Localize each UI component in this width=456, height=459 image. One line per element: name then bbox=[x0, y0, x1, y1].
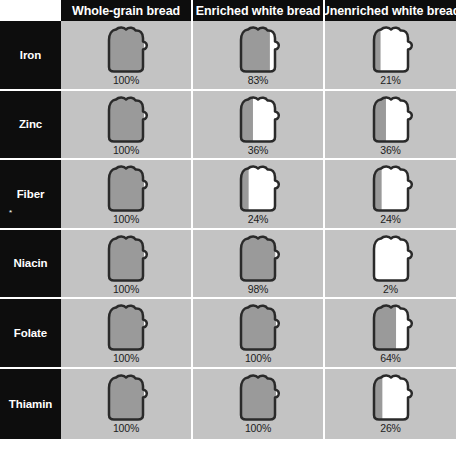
bread-slice-icon bbox=[364, 373, 418, 423]
column-header-row: Whole-grain bread Enriched white bread U… bbox=[0, 0, 456, 21]
cell-fiber-enriched-white: 24% bbox=[193, 160, 325, 230]
percent-label: 26% bbox=[380, 423, 400, 434]
cell-zinc-unenriched-white: 36% bbox=[325, 91, 456, 161]
cell-folate-unenriched-white: 64% bbox=[325, 299, 456, 369]
row-label-folate: Folate bbox=[0, 299, 61, 369]
table-row: Iron100%83%21% bbox=[0, 21, 456, 91]
footnote-marker-icon: * bbox=[9, 209, 12, 217]
cell-thiamin-unenriched-white: 26% bbox=[325, 369, 456, 439]
bread-slice-icon bbox=[99, 95, 153, 145]
row-label-niacin: Niacin bbox=[0, 230, 61, 300]
bread-slice-icon bbox=[99, 164, 153, 214]
nutrient-bread-infographic: Whole-grain bread Enriched white bread U… bbox=[0, 0, 456, 459]
cell-fiber-whole-grain: 100% bbox=[61, 160, 193, 230]
row-label-text: Zinc bbox=[19, 118, 42, 130]
cell-zinc-enriched-white: 36% bbox=[193, 91, 325, 161]
column-header-enriched-white: Enriched white bread bbox=[193, 0, 325, 21]
row-label-zinc: Zinc bbox=[0, 91, 61, 161]
bread-slice-icon bbox=[99, 234, 153, 284]
percent-label: 100% bbox=[113, 353, 139, 364]
table-row: Niacin100%98%2% bbox=[0, 230, 456, 300]
table-row: Fiber*100%24%24% bbox=[0, 160, 456, 230]
percent-label: 24% bbox=[380, 214, 400, 225]
cell-folate-enriched-white: 100% bbox=[193, 299, 325, 369]
percent-label: 100% bbox=[113, 75, 139, 86]
cell-iron-unenriched-white: 21% bbox=[325, 21, 456, 91]
row-label-iron: Iron bbox=[0, 21, 61, 91]
table-row: Folate100%100%64% bbox=[0, 299, 456, 369]
bread-slice-icon bbox=[364, 234, 418, 284]
row-label-text: Niacin bbox=[14, 257, 48, 269]
cell-niacin-whole-grain: 100% bbox=[61, 230, 193, 300]
cell-thiamin-whole-grain: 100% bbox=[61, 369, 193, 439]
bread-slice-icon bbox=[231, 95, 285, 145]
percent-label: 64% bbox=[380, 353, 400, 364]
percent-label: 36% bbox=[380, 145, 400, 156]
percent-label: 36% bbox=[248, 145, 268, 156]
bread-slice-icon bbox=[231, 303, 285, 353]
row-label-text: Folate bbox=[14, 327, 47, 339]
header-corner-spacer bbox=[0, 0, 61, 21]
table-row: Zinc100%36%36% bbox=[0, 91, 456, 161]
bread-slice-icon bbox=[231, 373, 285, 423]
bread-slice-icon bbox=[364, 25, 418, 75]
bread-slice-icon bbox=[231, 25, 285, 75]
cell-iron-whole-grain: 100% bbox=[61, 21, 193, 91]
cell-niacin-unenriched-white: 2% bbox=[325, 230, 456, 300]
row-label-text: Iron bbox=[20, 49, 41, 61]
percent-label: 100% bbox=[245, 353, 271, 364]
bread-slice-icon bbox=[364, 164, 418, 214]
column-header-unenriched-white: Unenriched white bread bbox=[325, 0, 456, 21]
percent-label: 100% bbox=[245, 423, 271, 434]
row-label-text: Fiber bbox=[17, 188, 45, 200]
bread-slice-icon bbox=[99, 303, 153, 353]
row-label-text: Thiamin bbox=[9, 398, 52, 410]
bread-slice-icon bbox=[99, 373, 153, 423]
percent-label: 100% bbox=[113, 423, 139, 434]
percent-label: 100% bbox=[113, 284, 139, 295]
bread-slice-icon bbox=[231, 164, 285, 214]
nutrient-rows-grid: Iron100%83%21%Zinc100%36%36%Fiber*100%24… bbox=[0, 21, 456, 459]
percent-label: 24% bbox=[248, 214, 268, 225]
bread-slice-icon bbox=[364, 95, 418, 145]
cell-niacin-enriched-white: 98% bbox=[193, 230, 325, 300]
percent-label: 21% bbox=[380, 75, 400, 86]
cell-folate-whole-grain: 100% bbox=[61, 299, 193, 369]
percent-label: 100% bbox=[113, 214, 139, 225]
percent-label: 83% bbox=[248, 75, 268, 86]
table-row: Thiamin100%100%26% bbox=[0, 369, 456, 439]
cell-zinc-whole-grain: 100% bbox=[61, 91, 193, 161]
bread-slice-icon bbox=[364, 303, 418, 353]
bread-slice-icon bbox=[99, 25, 153, 75]
bread-slice-icon bbox=[231, 234, 285, 284]
column-header-whole-grain: Whole-grain bread bbox=[61, 0, 193, 21]
percent-label: 98% bbox=[248, 284, 268, 295]
row-label-fiber: Fiber* bbox=[0, 160, 61, 230]
row-label-thiamin: Thiamin bbox=[0, 369, 61, 439]
percent-label: 100% bbox=[113, 145, 139, 156]
cell-fiber-unenriched-white: 24% bbox=[325, 160, 456, 230]
percent-label: 2% bbox=[383, 284, 398, 295]
cell-thiamin-enriched-white: 100% bbox=[193, 369, 325, 439]
cell-iron-enriched-white: 83% bbox=[193, 21, 325, 91]
